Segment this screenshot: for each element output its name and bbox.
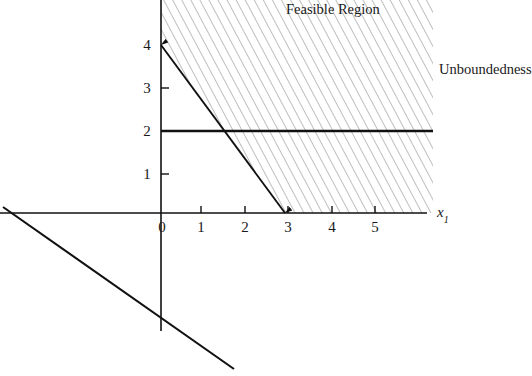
x-tick-label-2: 2	[238, 220, 252, 235]
unboundedness-annotation: Unboundedness	[439, 62, 532, 77]
x-axis-label-text: x	[437, 204, 444, 220]
x-tick-label-1: 1	[194, 220, 208, 235]
x-axis-label-subscript: 1	[444, 214, 449, 225]
y-tick-label-3: 3	[140, 81, 154, 96]
feasible-region-annotation: Feasible Region	[286, 2, 380, 17]
feasible-region-hatch	[155, 0, 439, 218]
y-tick-label-2: 2	[140, 124, 154, 139]
y-tick-label-4: 4	[140, 38, 154, 53]
x-axis-label: x1	[437, 205, 449, 223]
x-tick-label-3: 3	[281, 220, 295, 235]
axis-origin-label: 0	[155, 220, 169, 235]
y-tick-label-1: 1	[140, 167, 154, 182]
x-tick-label-5: 5	[368, 220, 382, 235]
x-tick-label-4: 4	[325, 220, 339, 235]
